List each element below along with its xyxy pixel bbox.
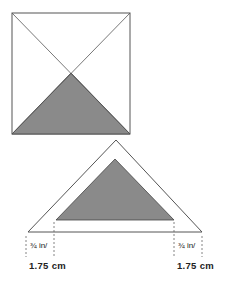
shaded-quarter-triangle [12, 73, 130, 134]
left-metric-label: 1.75 cm [29, 260, 66, 271]
left-fraction-label: ¾ in/ [30, 241, 47, 250]
right-metric-label: 1.75 cm [177, 260, 214, 271]
right-fraction-label: ¾ in/ [178, 241, 195, 250]
inner-shaded-triangle [56, 159, 174, 220]
